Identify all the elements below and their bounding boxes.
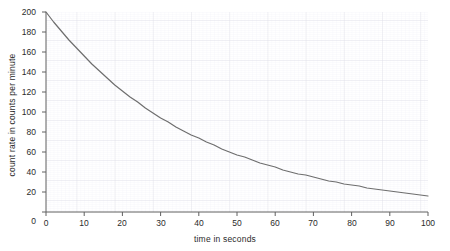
x-tick-label-40: 40 xyxy=(184,218,214,228)
y-tick-label-180: 180 xyxy=(8,27,36,37)
x-tick-label-60: 60 xyxy=(260,218,290,228)
x-tick-label-70: 70 xyxy=(298,218,328,228)
chart-container: 200 180 160 140 120 100 80 60 40 20 0 0 … xyxy=(0,0,450,251)
x-tick-label-20: 20 xyxy=(107,218,137,228)
x-axis-title: time in seconds xyxy=(0,234,450,244)
major-gridlines xyxy=(46,12,428,212)
x-tick-label-90: 90 xyxy=(375,218,405,228)
x-tick-label-30: 30 xyxy=(146,218,176,228)
x-tick-label-0: 0 xyxy=(31,218,61,228)
x-tick-marks xyxy=(46,212,428,216)
chart-plot-area xyxy=(0,0,450,251)
y-tick-label-200: 200 xyxy=(8,7,36,17)
x-tick-label-10: 10 xyxy=(69,218,99,228)
y-tick-marks xyxy=(42,12,46,212)
y-axis-title: count rate in counts per minute xyxy=(7,40,17,190)
x-tick-label-100: 100 xyxy=(413,218,443,228)
x-tick-label-50: 50 xyxy=(222,218,252,228)
x-tick-label-80: 80 xyxy=(337,218,367,228)
